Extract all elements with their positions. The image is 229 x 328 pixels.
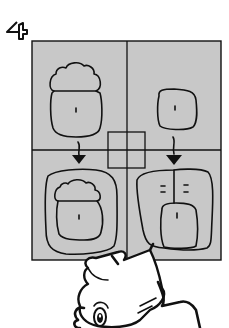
figure-canvas (0, 0, 229, 328)
